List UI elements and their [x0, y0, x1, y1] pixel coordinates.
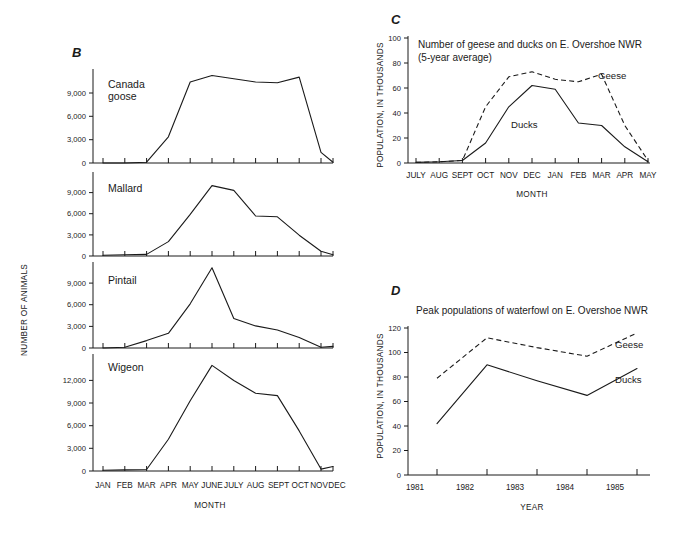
month-label: FEB	[570, 171, 586, 180]
curve-geese-peak	[437, 333, 637, 378]
year-label: 1981	[406, 483, 425, 492]
y-ticks-canada-goose	[89, 93, 93, 163]
ytick-label: 60	[393, 84, 401, 93]
ytick-label: 100	[388, 34, 401, 43]
ytick-label: 100	[388, 348, 401, 357]
ytick-label: 0	[397, 159, 401, 168]
month-label: OCT	[292, 481, 309, 490]
ytick-label: 3,000	[67, 231, 86, 240]
month-label: JULY	[224, 481, 244, 490]
ytick-label: 6,000	[67, 112, 86, 121]
ytick-label: 6,000	[67, 209, 86, 218]
ytick-label: 0	[397, 471, 401, 480]
ytick-label: 80	[393, 373, 401, 382]
panel-d-letter: D	[391, 283, 401, 298]
month-label: NOV	[310, 481, 328, 490]
year-label: 1985	[606, 483, 625, 492]
month-label: MAY	[182, 481, 200, 490]
subpanel-canada-goose: 0 3,000 6,000 9,000 Canadagoose	[67, 69, 333, 168]
month-label: MAR	[592, 171, 610, 180]
ytick-label: 3,000	[67, 322, 86, 331]
month-label: JAN	[95, 481, 111, 490]
month-labels-panel-c: JULY AUG SEPT OCT NOV DEC JAN FEB MAR AP…	[406, 171, 657, 180]
y-ticks-pintail	[89, 283, 93, 348]
panel-b-letter: B	[72, 45, 81, 60]
month-label: OCT	[477, 171, 494, 180]
panel-d-xlabel: YEAR	[520, 503, 544, 512]
species-label-canada-goose: Canadagoose	[108, 78, 145, 102]
month-label: SEPT	[452, 171, 473, 180]
y-ticks-panel-c	[404, 38, 408, 163]
species-label-pintail: Pintail	[108, 274, 137, 286]
ytick-label: 40	[393, 422, 401, 431]
panel-b-ylabel: NUMBER OF ANIMALS	[20, 264, 29, 356]
panel-c: C POPULATION, IN THOUSANDS Number of gee…	[376, 12, 657, 199]
y-ticks-mallard	[89, 193, 93, 256]
month-label: JULY	[406, 171, 426, 180]
ytick-label: 6,000	[67, 300, 86, 309]
ytick-label: 20	[393, 446, 401, 455]
subpanel-pintail: 0 3,000 6,000 9,000 Pintail	[67, 262, 333, 353]
ytick-label: 120	[388, 324, 401, 333]
panel-d-title: Peak populations of waterfowl on E. Over…	[416, 305, 648, 316]
subpanel-wigeon: 0 3,000 6,000 9,000 12,000 Wigeon	[63, 354, 346, 490]
ytick-label: 0	[82, 344, 86, 353]
month-label: NOV	[500, 171, 518, 180]
y-ticks-wigeon	[89, 380, 93, 471]
ytick-label: 60	[393, 397, 401, 406]
species-label-wigeon: Wigeon	[108, 361, 144, 373]
x-ticks-panel-c	[416, 158, 648, 163]
panel-c-title-line1: Number of geese and ducks on E. Overshoe…	[418, 39, 642, 50]
ytick-label: 20	[393, 134, 401, 143]
ytick-label: 3,000	[67, 135, 86, 144]
x-ticks-wigeon	[103, 466, 333, 471]
year-label: 1984	[556, 483, 575, 492]
month-label: SEPT	[268, 481, 289, 490]
curve-mallard	[103, 186, 333, 256]
month-label: AUG	[430, 171, 448, 180]
month-label: DEC	[328, 481, 345, 490]
month-label: DEC	[523, 171, 540, 180]
curve-ducks-peak	[437, 365, 637, 424]
month-label: AUG	[247, 481, 265, 490]
panel-c-letter: C	[391, 12, 401, 27]
ytick-label: 80	[393, 59, 401, 68]
ytick-label: 9,000	[67, 89, 86, 98]
series-label-geese-c: Geese	[598, 70, 626, 81]
year-labels-panel-d: 1981 1982 1983 1984 1985	[406, 483, 625, 492]
year-label: 1982	[456, 483, 475, 492]
species-label-mallard: Mallard	[108, 182, 143, 194]
ytick-label: 0	[82, 159, 86, 168]
month-label: MAY	[639, 171, 657, 180]
panel-d: D POPULATION, IN THOUSANDS Peak populati…	[376, 283, 650, 512]
panel-d-ylabel: POPULATION, IN THOUSANDS	[376, 333, 385, 459]
month-label: APR	[616, 171, 633, 180]
subpanel-mallard: 0 3,000 6,000 9,000 Mallard	[67, 172, 333, 261]
panel-c-title-line2: (5-year average)	[418, 52, 492, 63]
ytick-label: 3,000	[67, 444, 86, 453]
panel-c-ylabel: POPULATION, IN THOUSANDS	[376, 42, 385, 168]
month-label: FEB	[117, 481, 133, 490]
x-ticks-panel-d	[437, 469, 637, 475]
month-labels-panel-b: JAN FEB MAR APR MAY JUNE JULY AUG SEPT O…	[95, 481, 345, 490]
curve-pintail	[103, 268, 333, 348]
ytick-label: 12,000	[63, 376, 86, 385]
panel-b: B NUMBER OF ANIMALS MONTH 0 3,000 6,000 …	[20, 45, 346, 510]
ytick-label: 9,000	[67, 399, 86, 408]
panel-b-xlabel: MONTH	[194, 501, 226, 510]
ytick-label: 9,000	[67, 188, 86, 197]
month-label: JUNE	[201, 481, 223, 490]
month-label: MAR	[137, 481, 155, 490]
series-label-ducks-c: Ducks	[511, 119, 538, 130]
ytick-label: 0	[82, 467, 86, 476]
month-label: JAN	[547, 171, 563, 180]
series-label-geese-d: Geese	[615, 339, 643, 350]
ytick-label: 9,000	[67, 279, 86, 288]
waterfowl-figure: B NUMBER OF ANIMALS MONTH 0 3,000 6,000 …	[0, 0, 679, 535]
year-label: 1983	[506, 483, 525, 492]
ytick-label: 40	[393, 109, 401, 118]
month-label: APR	[160, 481, 177, 490]
x-ticks-mallard	[103, 251, 333, 256]
curve-wigeon	[103, 365, 333, 470]
series-label-ducks-d: Ducks	[615, 374, 642, 385]
